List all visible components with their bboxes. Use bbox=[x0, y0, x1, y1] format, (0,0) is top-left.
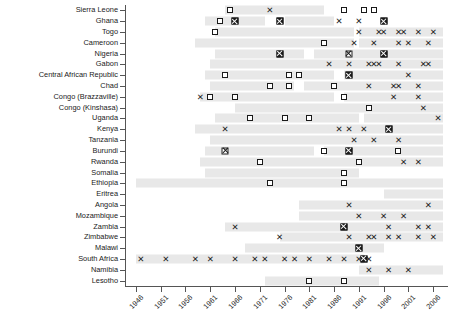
data-point-x: ✕ bbox=[375, 61, 382, 68]
data-point-x: ✕ bbox=[326, 255, 333, 262]
marker-glyph: ✕ bbox=[395, 137, 402, 144]
marker-glyph: ✕ bbox=[385, 223, 392, 230]
data-point-x: ✕ bbox=[306, 255, 313, 262]
marker-glyph: ✕ bbox=[390, 93, 397, 100]
timeline-band bbox=[314, 49, 443, 58]
marker-glyph: ✕ bbox=[365, 83, 372, 90]
marker-glyph bbox=[345, 147, 352, 154]
y-axis-label: Somalia bbox=[91, 169, 118, 177]
timeline-band bbox=[364, 114, 443, 123]
data-point-x: ✕ bbox=[435, 115, 442, 122]
data-point-both bbox=[276, 18, 283, 25]
data-point-x: ✕ bbox=[405, 266, 412, 273]
data-point-x: ✕ bbox=[415, 234, 422, 241]
data-point-x: ✕ bbox=[207, 255, 214, 262]
x-axis-tick bbox=[433, 287, 434, 292]
marker-glyph: ✕ bbox=[345, 126, 352, 133]
data-point-both bbox=[340, 223, 347, 230]
marker-glyph bbox=[232, 94, 238, 100]
x-axis-tick bbox=[161, 287, 162, 292]
data-point-square bbox=[341, 7, 347, 13]
y-axis-label: Mozambique bbox=[76, 212, 118, 220]
timeline-band bbox=[225, 222, 443, 231]
data-point-x: ✕ bbox=[251, 255, 258, 262]
marker-glyph bbox=[222, 147, 229, 154]
marker-glyph: ✕ bbox=[415, 83, 422, 90]
y-axis-label: Malawi bbox=[95, 244, 118, 252]
y-axis-label: Nigeria bbox=[95, 50, 118, 58]
data-point-square bbox=[247, 115, 253, 121]
marker-glyph: ✕ bbox=[281, 255, 288, 262]
marker-glyph bbox=[321, 40, 327, 46]
marker-glyph: ✕ bbox=[400, 158, 407, 165]
data-point-square bbox=[341, 94, 347, 100]
y-axis-label: Uganda bbox=[92, 114, 118, 122]
marker-glyph: ✕ bbox=[420, 104, 427, 111]
marker-glyph: ✕ bbox=[415, 158, 422, 165]
x-axis-line bbox=[125, 286, 448, 287]
marker-glyph: ✕ bbox=[400, 212, 407, 219]
data-point-x: ✕ bbox=[355, 18, 362, 25]
marker-glyph bbox=[257, 159, 263, 165]
y-axis-label: Kenya bbox=[97, 125, 118, 133]
marker-glyph: ✕ bbox=[261, 255, 268, 262]
timeline-band bbox=[285, 17, 335, 26]
data-point-x: ✕ bbox=[162, 255, 169, 262]
marker-glyph: ✕ bbox=[415, 223, 422, 230]
data-point-square bbox=[267, 83, 273, 89]
timeline-band bbox=[235, 103, 443, 112]
data-point-x: ✕ bbox=[420, 104, 427, 111]
marker-glyph: ✕ bbox=[425, 61, 432, 68]
timeline-band bbox=[205, 168, 359, 177]
marker-glyph bbox=[306, 278, 312, 284]
data-point-square bbox=[212, 29, 218, 35]
data-point-x: ✕ bbox=[395, 39, 402, 46]
data-point-x: ✕ bbox=[345, 234, 352, 241]
data-point-x: ✕ bbox=[425, 39, 432, 46]
x-axis-tick bbox=[334, 287, 335, 292]
timeline-band bbox=[299, 211, 443, 220]
timeline-band bbox=[195, 38, 354, 47]
marker-glyph: ✕ bbox=[251, 255, 258, 262]
marker-glyph: ✕ bbox=[340, 255, 347, 262]
marker-glyph: ✕ bbox=[380, 212, 387, 219]
marker-glyph: ✕ bbox=[425, 201, 432, 208]
marker-glyph: ✕ bbox=[395, 83, 402, 90]
data-point-x: ✕ bbox=[385, 266, 392, 273]
marker-glyph: ✕ bbox=[345, 234, 352, 241]
marker-glyph: ✕ bbox=[326, 255, 333, 262]
data-point-square bbox=[356, 159, 362, 165]
data-point-x: ✕ bbox=[385, 234, 392, 241]
y-axis-label: Gabon bbox=[96, 60, 118, 68]
marker-glyph bbox=[296, 72, 302, 78]
timeline-band bbox=[384, 190, 443, 199]
x-axis-label: 1991 bbox=[350, 293, 368, 311]
timeline-band bbox=[136, 179, 443, 188]
data-point-square bbox=[321, 40, 327, 46]
data-point-square bbox=[395, 148, 401, 154]
marker-glyph: ✕ bbox=[405, 39, 412, 46]
data-point-x: ✕ bbox=[355, 29, 362, 36]
data-point-square bbox=[371, 7, 377, 13]
marker-glyph: ✕ bbox=[266, 7, 273, 14]
plot-area: ✕✕✕✕✕✕✕✕✕✕✕✕✕✕✕✕✕✕✕✕✕✕✕✕✕✕✕✕✕✕✕✕✕✕✕✕✕✕✕✕… bbox=[126, 5, 448, 286]
marker-glyph bbox=[356, 159, 362, 165]
marker-glyph: ✕ bbox=[326, 61, 333, 68]
marker-glyph bbox=[276, 50, 283, 57]
y-axis-label: South Africa bbox=[78, 255, 118, 263]
marker-glyph: ✕ bbox=[350, 39, 357, 46]
x-axis-tick bbox=[408, 287, 409, 292]
marker-glyph: ✕ bbox=[355, 18, 362, 25]
data-point-x: ✕ bbox=[137, 255, 144, 262]
marker-glyph: ✕ bbox=[430, 29, 437, 36]
marker-glyph: ✕ bbox=[162, 255, 169, 262]
data-point-x: ✕ bbox=[380, 29, 387, 36]
data-point-both bbox=[380, 50, 387, 57]
data-point-square bbox=[361, 7, 367, 13]
data-point-both bbox=[345, 72, 352, 79]
x-axis-tick bbox=[136, 287, 137, 292]
y-axis-label: Sierra Leone bbox=[76, 6, 118, 14]
marker-glyph: ✕ bbox=[380, 29, 387, 36]
data-point-square bbox=[341, 278, 347, 284]
y-axis-label: Chad bbox=[100, 82, 118, 90]
